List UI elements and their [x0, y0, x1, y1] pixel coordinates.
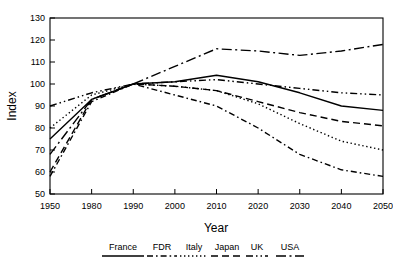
line-chart: 5060708090100110120130 19501980199020002…: [0, 0, 393, 262]
legend-label-uk: UK: [251, 242, 264, 252]
x-tick-label: 1980: [82, 201, 102, 211]
x-tick-label: 2040: [331, 201, 351, 211]
legend-label-japan: Japan: [215, 242, 240, 252]
y-tick-label: 130: [30, 13, 45, 23]
x-tick-label: 2050: [373, 201, 393, 211]
y-tick-label: 110: [31, 57, 45, 67]
y-tick-label: 90: [35, 101, 45, 111]
legend-label-fdr: FDR: [153, 242, 172, 252]
y-tick-label: 50: [35, 189, 45, 199]
x-tick-label: 2020: [248, 201, 268, 211]
legend-label-france: France: [109, 242, 137, 252]
legend-label-usa: USA: [281, 242, 300, 252]
legend-label-italy: Italy: [186, 242, 203, 252]
x-axis-title: Year: [204, 221, 228, 235]
y-tick-label: 70: [35, 145, 45, 155]
x-tick-label: 2010: [206, 201, 226, 211]
x-tick-label: 2030: [290, 201, 310, 211]
x-tick-label: 1990: [123, 201, 143, 211]
y-tick-label: 60: [35, 167, 45, 177]
y-tick-label: 120: [30, 35, 45, 45]
y-tick-label: 100: [30, 79, 45, 89]
x-tick-label: 2000: [165, 201, 185, 211]
y-axis-title: Index: [5, 91, 19, 120]
chart-canvas: 5060708090100110120130 19501980199020002…: [0, 0, 393, 262]
x-tick-label: 1950: [40, 201, 60, 211]
y-tick-label: 80: [35, 123, 45, 133]
